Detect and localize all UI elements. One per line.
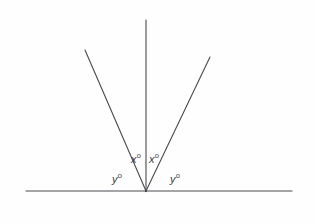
angle-variable: y (170, 173, 176, 185)
angle-variable: x (131, 153, 137, 165)
ray-q-s (85, 50, 146, 191)
angle-label-vqr: yo (170, 174, 180, 185)
angle-variable: x (149, 153, 155, 165)
diagram-canvas (0, 0, 315, 224)
degree-symbol-icon: o (137, 151, 141, 160)
degree-symbol-icon: o (155, 151, 159, 160)
degree-symbol-icon: o (176, 171, 180, 180)
angle-variable: y (112, 173, 118, 185)
vertex-marker-group (145, 190, 147, 192)
segment-group (26, 20, 292, 191)
geometry-diagram: xoxoyoyo (0, 0, 315, 224)
vertex-q-marker (145, 190, 147, 192)
angle-label-tqv: xo (149, 154, 159, 165)
angle-label-sqt: xo (131, 154, 141, 165)
degree-symbol-icon: o (118, 171, 122, 180)
angle-label-pqs: yo (112, 174, 122, 185)
